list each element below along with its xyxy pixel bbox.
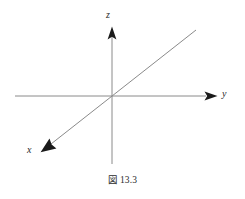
x-axis-label: x — [27, 145, 31, 155]
caption-prefix: 図 — [108, 175, 118, 185]
figure-caption: 図13.3 — [0, 172, 245, 186]
y-axis-label: y — [222, 89, 226, 99]
z-axis-label: z — [106, 10, 110, 20]
figure-3d-axes: z y x 図13.3 — [0, 0, 245, 199]
axes-drawing — [0, 0, 245, 199]
arrow-down-left-icon — [41, 138, 57, 152]
caption-number: 13.3 — [120, 175, 137, 185]
arrow-right-icon — [205, 92, 218, 101]
x-axis-line — [51, 30, 196, 144]
